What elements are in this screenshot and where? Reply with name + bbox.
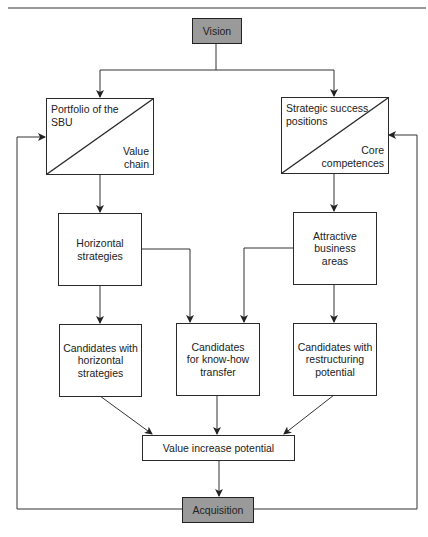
core-competences-label: Core competences: [322, 144, 384, 169]
value-increase-label: Value increase potential: [163, 442, 274, 455]
vision-label: Vision: [203, 25, 231, 38]
candidates-restructuring-label: Candidates with restructuring potential: [298, 341, 373, 379]
value-increase-node: Value increase potential: [142, 435, 295, 461]
candidates-horizontal-label: Candidates with horizontal strategies: [63, 342, 138, 380]
horizontal-strategies-label: Horizontal strategies: [76, 237, 123, 262]
candidates-horizontal-node: Candidates with horizontal strategies: [59, 324, 142, 397]
attractive-areas-node: Attractive business areas: [293, 212, 377, 285]
strategic-label: Strategic success positions: [286, 102, 368, 127]
vision-node: Vision: [192, 18, 242, 44]
candidates-knowhow-node: Candidates for know-how transfer: [176, 323, 260, 396]
portfolio-node: Portfolio of the SBU Value chain: [46, 98, 154, 175]
candidates-restructuring-node: Candidates with restructuring potential: [293, 323, 377, 396]
horizontal-strategies-node: Horizontal strategies: [58, 213, 142, 286]
candidates-knowhow-label: Candidates for know-how transfer: [187, 341, 249, 379]
attractive-areas-label: Attractive business areas: [313, 230, 357, 268]
value-chain-label: Value chain: [123, 145, 149, 170]
portfolio-label: Portfolio of the SBU: [51, 103, 119, 128]
acquisition-node: Acquisition: [182, 497, 254, 523]
strategic-node: Strategic success positions Core compete…: [281, 97, 389, 174]
acquisition-label: Acquisition: [193, 504, 244, 517]
